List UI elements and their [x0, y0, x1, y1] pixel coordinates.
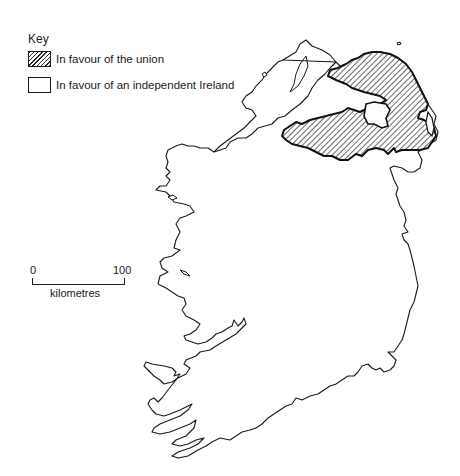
key-label-union: In favour of the union: [56, 53, 164, 65]
hatched-swatch-icon: [28, 51, 51, 67]
scale-line: [32, 278, 125, 285]
key-item-independent: In favour of an independent Ireland: [28, 77, 234, 93]
lough-neagh: [364, 102, 390, 128]
scale-start-label: 0: [30, 264, 36, 276]
rathlin-island: [397, 42, 401, 45]
scale-end-label: 100: [113, 264, 131, 276]
key-item-union: In favour of the union: [28, 51, 164, 67]
key-label-independent: In favour of an independent Ireland: [56, 79, 234, 91]
key-title: Key: [28, 32, 49, 46]
scale-unit-label: kilometres: [50, 287, 100, 299]
lough-swilly-inlet: [290, 56, 308, 92]
blank-swatch-icon: [28, 77, 51, 93]
ireland-map: [0, 0, 460, 476]
